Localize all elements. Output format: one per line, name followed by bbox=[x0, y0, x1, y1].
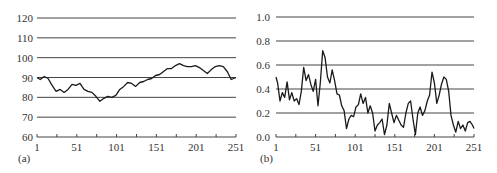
series-line-series-b bbox=[276, 51, 474, 135]
x-tick-label: 201 bbox=[426, 141, 443, 153]
y-tick-label: 0.2 bbox=[256, 107, 270, 119]
figure: 60708090100110120151101151201251(a) 0.00… bbox=[0, 0, 497, 173]
panel-label: (b) bbox=[260, 152, 273, 165]
y-tick-label: 0.6 bbox=[256, 59, 270, 71]
panel-a: 60708090100110120151101151201251(a) bbox=[17, 12, 245, 165]
x-tick-label: 51 bbox=[71, 141, 82, 153]
x-tick-label: 51 bbox=[310, 141, 321, 153]
y-tick-label: 110 bbox=[17, 32, 34, 44]
x-tick-label: 101 bbox=[108, 141, 125, 153]
y-tick-label: 0.4 bbox=[256, 83, 270, 95]
series-line-series-a bbox=[37, 64, 236, 102]
x-tick-label: 251 bbox=[228, 141, 245, 153]
x-tick-label: 151 bbox=[387, 141, 404, 153]
y-tick-label: 120 bbox=[17, 12, 34, 24]
y-tick-label: 1.0 bbox=[256, 11, 270, 23]
y-tick-label: 0.8 bbox=[256, 35, 270, 47]
x-tick-label: 101 bbox=[347, 141, 364, 153]
x-tick-label: 251 bbox=[466, 141, 483, 153]
x-tick-label: 151 bbox=[148, 141, 165, 153]
x-tick-label: 201 bbox=[188, 141, 205, 153]
y-tick-label: 80 bbox=[22, 91, 34, 103]
y-tick-label: 90 bbox=[22, 72, 34, 84]
y-tick-label: 100 bbox=[17, 52, 34, 64]
y-tick-label: 60 bbox=[22, 131, 34, 143]
x-tick-label: 1 bbox=[273, 141, 279, 153]
y-tick-label: 70 bbox=[22, 111, 34, 123]
panel-label: (a) bbox=[18, 152, 31, 165]
x-tick-label: 1 bbox=[34, 141, 40, 153]
y-tick-label: 0.0 bbox=[256, 131, 270, 143]
panel-b: 0.00.20.40.60.81.0151101151201251(b) bbox=[256, 11, 482, 165]
